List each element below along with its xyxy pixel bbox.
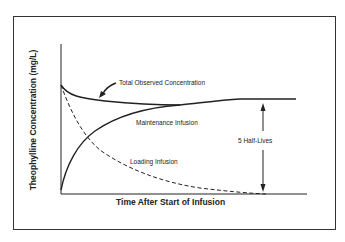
total-concentration-label: Total Observed Concentration [119, 79, 205, 86]
loading-infusion-curve [61, 85, 266, 194]
maintenance-infusion-label: Maintenance Infusion [136, 119, 198, 126]
arrowhead-icon [99, 91, 106, 98]
maintenance-infusion-curve [61, 105, 180, 190]
total-concentration-curve [61, 85, 296, 105]
y-axis-label: Theophylline Concentration (mg/L) [28, 50, 38, 191]
half-lives-label: 5 Half-Lives [238, 137, 272, 144]
arrow-up-icon [261, 103, 266, 111]
loading-infusion-label: Loading Infusion [130, 158, 178, 165]
x-axis-label: Time After Start of Infusion [116, 197, 225, 207]
arrow-down-icon [261, 184, 266, 192]
